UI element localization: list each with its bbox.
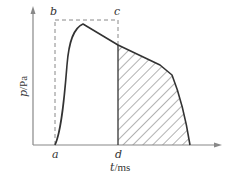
pressure-time-diagram: b c a d p/Pa t/ms [0, 0, 232, 176]
point-label-c: c [114, 5, 120, 18]
point-label-b: b [50, 5, 57, 18]
y-axis-label-unit: /Pa [17, 76, 29, 90]
y-axis [31, 6, 36, 145]
point-label-d: d [115, 148, 122, 161]
x-axis-label: t/ms [110, 161, 130, 174]
y-axis-arrow-icon [31, 6, 36, 14]
x-axis-label-unit: /ms [114, 161, 130, 173]
y-axis-label: p/Pa [17, 76, 30, 97]
point-label-a: a [52, 148, 59, 161]
x-axis-arrow-icon [214, 143, 222, 148]
svg-text:p/Pa: p/Pa [17, 76, 30, 97]
y-axis-label-var: p [17, 90, 30, 97]
